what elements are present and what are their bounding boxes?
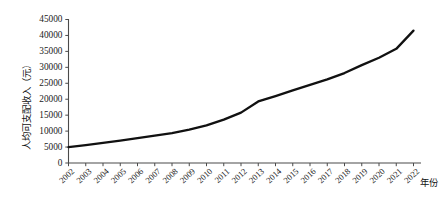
x-axis-tick-label: 2009 bbox=[178, 166, 197, 185]
x-axis-tick-label: 2008 bbox=[160, 166, 179, 185]
x-axis-tick-label: 2005 bbox=[109, 166, 128, 185]
x-axis-tick-label: 2014 bbox=[264, 166, 284, 186]
x-axis-tick-label: 2021 bbox=[385, 166, 404, 185]
line-chart: 0500010000150002000025000300003500040000… bbox=[0, 0, 447, 199]
x-axis-tick-label: 2018 bbox=[333, 166, 352, 185]
x-axis-tick-label: 2016 bbox=[298, 166, 318, 186]
x-axis-tick-label: 2006 bbox=[126, 166, 146, 186]
x-axis-tick-label: 2013 bbox=[247, 166, 266, 185]
y-axis-tick-label: 5000 bbox=[44, 142, 63, 152]
x-axis-tick-label: 2017 bbox=[316, 166, 336, 186]
x-axis-tick-label: 2007 bbox=[143, 166, 163, 186]
x-axis-tick-label: 2003 bbox=[74, 166, 93, 185]
y-axis-labels: 0500010000150002000025000300003500040000… bbox=[39, 14, 63, 168]
x-axis-tick-label: 2010 bbox=[195, 166, 214, 185]
x-axis-tick-label: 2015 bbox=[281, 166, 300, 185]
y-axis-tick-label: 10000 bbox=[39, 126, 63, 136]
y-axis-tick-label: 0 bbox=[58, 158, 63, 168]
y-axis-tick-label: 40000 bbox=[39, 30, 63, 40]
x-axis-tick-label: 2020 bbox=[367, 166, 386, 185]
y-axis-tick-label: 15000 bbox=[39, 110, 63, 120]
x-axis-tick-label: 2004 bbox=[91, 166, 111, 186]
x-axis-tick-label: 2002 bbox=[57, 166, 76, 185]
y-axis-tick-label: 20000 bbox=[39, 94, 63, 104]
y-axis-title: 人均可支配收入（元） bbox=[21, 60, 32, 150]
data-series-line bbox=[69, 31, 414, 147]
x-axis-tick-label: 2012 bbox=[229, 166, 248, 185]
y-axis-tick-label: 45000 bbox=[39, 14, 63, 24]
x-axis-labels: 2002200320042005200620072008200920102011… bbox=[57, 166, 421, 186]
chart-container: 0500010000150002000025000300003500040000… bbox=[0, 0, 447, 199]
x-axis-tick-label: 2019 bbox=[350, 166, 369, 185]
y-axis-tick-label: 30000 bbox=[39, 62, 63, 72]
y-axis-tick-label: 35000 bbox=[39, 46, 63, 56]
x-axis-title: 年份 bbox=[420, 177, 439, 188]
x-axis-tick-label: 2022 bbox=[402, 166, 421, 185]
y-axis-tick-label: 25000 bbox=[39, 78, 63, 88]
x-axis-tick-label: 2011 bbox=[212, 166, 231, 185]
